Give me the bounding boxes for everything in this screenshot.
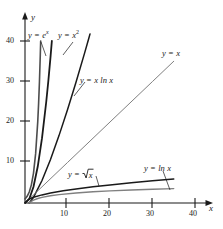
label-sqrt-x: y = x xyxy=(68,168,94,179)
y-axis-label: y xyxy=(31,12,35,22)
label-exponential: y = ex xyxy=(28,29,49,40)
label-x-squared: y = x2 xyxy=(58,29,79,40)
y-axis-arrow xyxy=(22,12,28,20)
growth-rate-comparison-figure: y x 40 30 20 10 10 20 30 40 y = ex y = x… xyxy=(0,0,223,229)
x-tick-label-20: 20 xyxy=(103,209,111,218)
label-linear: y = x xyxy=(162,48,180,58)
axes-group xyxy=(22,12,213,206)
label-x-squared-exponent: 2 xyxy=(76,29,79,35)
leader-sqrt xyxy=(96,176,99,186)
leader-exp xyxy=(41,42,46,56)
radical-icon: x xyxy=(82,168,94,179)
label-x-squared-text: y = x xyxy=(58,30,76,40)
y-tick-label-20: 20 xyxy=(6,116,14,125)
label-exponential-exponent: x xyxy=(46,29,49,35)
x-tick-label-30: 30 xyxy=(146,209,154,218)
label-sqrt-x-text: y = xyxy=(68,169,82,179)
y-tick-label-10: 10 xyxy=(6,156,14,165)
curve-exp-x- xyxy=(25,41,41,199)
y-tick-label-30: 30 xyxy=(6,76,14,85)
label-exponential-text: y = e xyxy=(28,30,46,40)
label-sqrt-x-radicand: x xyxy=(89,170,93,180)
x-axis-label: x xyxy=(209,203,213,213)
y-tick-label-40: 40 xyxy=(6,36,14,45)
curve-group xyxy=(25,34,174,203)
label-x-ln-x: y = x ln x xyxy=(80,75,113,85)
x-tick-label-10: 10 xyxy=(60,209,68,218)
leader-xsq xyxy=(63,42,73,55)
label-ln-x: y = ln x xyxy=(144,163,171,173)
x-tick-label-40: 40 xyxy=(189,209,197,218)
